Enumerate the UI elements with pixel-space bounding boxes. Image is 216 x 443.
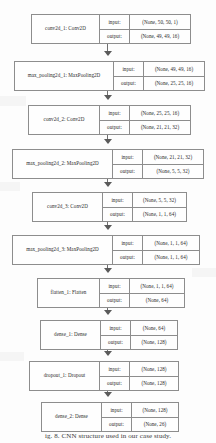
io-row-input: input:(None, 25, 25, 16): [100, 106, 190, 121]
arrowhead-icon: [104, 182, 112, 187]
scan-artifact: [0, 182, 20, 191]
io-key-output: output:: [100, 121, 130, 135]
io-row-output: output:(None, 26): [102, 418, 178, 432]
arrowhead-icon: [104, 139, 112, 144]
layer-name-label: conv2d_3: Conv2D: [33, 193, 103, 221]
layer-name-label: max_pooling2d_1: MaxPooling2D: [15, 62, 114, 90]
io-key-output: output:: [100, 294, 130, 308]
io-key-output: output:: [100, 30, 130, 44]
layer-io-table: input:(None, 128)output:(None, 128): [100, 362, 178, 390]
layer-io-table: input:(None, 49, 49, 16)output:(None, 25…: [114, 62, 204, 90]
io-value-output: (None, 128): [130, 377, 178, 391]
layer-io-table: input:(None, 21, 21, 32)output:(None, 5,…: [113, 150, 203, 178]
figure-caption: ig. 8. CNN structure used in our case st…: [0, 430, 216, 443]
io-row-output: output:(None, 128): [101, 336, 177, 350]
io-row-input: input:(None, 64): [101, 321, 177, 336]
io-row-input: input:(None, 1, 1, 64): [100, 279, 184, 294]
io-row-output: output:(None, 64): [100, 294, 184, 308]
layer-io-table: input:(None, 50, 50, 1)output:(None, 49,…: [100, 15, 190, 43]
io-value-output: (None, 21, 21, 32): [130, 121, 190, 135]
io-row-input: input:(None, 128): [102, 403, 178, 418]
layer-name-label: conv2d_2: Conv2D: [29, 106, 100, 134]
io-value-output: (None, 49, 49, 16): [130, 30, 190, 44]
io-value-input: (None, 21, 21, 32): [143, 150, 203, 164]
io-key-output: output:: [113, 165, 143, 179]
layer-node-dense_1[interactable]: dense_1: Denseinput:(None, 64)output:(No…: [40, 320, 178, 350]
io-key-output: output:: [102, 418, 132, 432]
io-value-output: (None, 128): [131, 336, 177, 350]
layer-node-max_pooling2d_1[interactable]: max_pooling2d_1: MaxPooling2Dinput:(None…: [14, 61, 205, 91]
io-value-input: (None, 50, 50, 1): [130, 15, 190, 29]
layer-io-table: input:(None, 1, 1, 64)output:(None, 64): [100, 279, 184, 307]
io-row-input: input:(None, 128): [100, 362, 178, 377]
scan-artifact: [0, 352, 24, 361]
layer-name-label: flatten_1: Flatten: [38, 279, 100, 307]
layer-node-max_pooling2d_2[interactable]: max_pooling2d_2: MaxPooling2Dinput:(None…: [12, 149, 204, 179]
io-key-output: output:: [103, 208, 133, 222]
arrowhead-icon: [104, 95, 112, 100]
scan-artifact: [192, 268, 216, 277]
io-row-output: output:(None, 25, 25, 16): [114, 77, 204, 91]
arrowhead-icon: [104, 392, 112, 397]
arrowhead-icon: [104, 310, 112, 315]
io-row-input: input:(None, 5, 5, 32): [103, 193, 186, 208]
io-value-input: (None, 49, 49, 16): [144, 62, 204, 76]
io-value-input: (None, 1, 1, 64): [130, 279, 184, 293]
io-key-input: input:: [100, 362, 130, 376]
io-key-output: output:: [113, 251, 143, 265]
io-value-output: (None, 64): [130, 294, 184, 308]
io-row-output: output:(None, 21, 21, 32): [100, 121, 190, 135]
io-key-output: output:: [101, 336, 131, 350]
io-row-output: output:(None, 49, 49, 16): [100, 30, 190, 44]
io-key-input: input:: [103, 193, 133, 207]
layer-node-conv2d_3[interactable]: conv2d_3: Conv2Dinput:(None, 5, 5, 32)ou…: [32, 192, 187, 222]
layer-node-conv2d_1[interactable]: conv2d_1: Conv2Dinput:(None, 50, 50, 1)o…: [31, 14, 191, 44]
layer-io-table: input:(None, 5, 5, 32)output:(None, 1, 1…: [103, 193, 186, 221]
io-value-output: (None, 26): [132, 418, 178, 432]
layer-node-dropout_1[interactable]: dropout_1: Dropoutinput:(None, 128)outpu…: [29, 361, 179, 391]
io-value-input: (None, 1, 1, 64): [143, 236, 199, 250]
io-key-output: output:: [114, 77, 144, 91]
layer-io-table: input:(None, 25, 25, 16)output:(None, 21…: [100, 106, 190, 134]
layer-name-label: conv2d_1: Conv2D: [32, 15, 100, 43]
layer-node-flatten_1[interactable]: flatten_1: Flatteninput:(None, 1, 1, 64)…: [37, 278, 185, 308]
io-key-output: output:: [100, 377, 130, 391]
io-key-input: input:: [100, 279, 130, 293]
io-row-input: input:(None, 50, 50, 1): [100, 15, 190, 30]
io-value-input: (None, 128): [130, 362, 178, 376]
io-key-input: input:: [101, 321, 131, 335]
io-value-output: (None, 1, 1, 64): [133, 208, 186, 222]
io-value-input: (None, 5, 5, 32): [133, 193, 186, 207]
arrowhead-icon: [104, 225, 112, 230]
io-row-input: input:(None, 1, 1, 64): [113, 236, 199, 251]
layer-io-table: input:(None, 1, 1, 64)output:(None, 1, 1…: [113, 236, 199, 264]
io-row-output: output:(None, 5, 5, 32): [113, 165, 203, 179]
io-row-input: input:(None, 21, 21, 32): [113, 150, 203, 165]
io-value-input: (None, 25, 25, 16): [130, 106, 190, 120]
layer-io-table: input:(None, 64)output:(None, 128): [101, 321, 177, 349]
io-value-output: (None, 25, 25, 16): [144, 77, 204, 91]
io-row-output: output:(None, 1, 1, 64): [113, 251, 199, 265]
io-value-output: (None, 1, 1, 64): [143, 251, 199, 265]
layer-name-label: dense_1: Dense: [41, 321, 101, 349]
io-key-input: input:: [113, 236, 143, 250]
model-architecture-diagram: conv2d_1: Conv2Dinput:(None, 50, 50, 1)o…: [0, 0, 216, 443]
layer-node-conv2d_2[interactable]: conv2d_2: Conv2Dinput:(None, 25, 25, 16)…: [28, 105, 191, 135]
io-key-input: input:: [113, 150, 143, 164]
layer-node-max_pooling2d_3[interactable]: max_pooling2d_3: MaxPooling2Dinput:(None…: [12, 235, 200, 265]
io-key-input: input:: [102, 403, 132, 417]
io-key-input: input:: [100, 15, 130, 29]
layer-node-dense_2[interactable]: dense_2: Denseinput:(None, 128)output:(N…: [41, 402, 179, 432]
io-row-output: output:(None, 1, 1, 64): [103, 208, 186, 222]
layer-name-label: dense_2: Dense: [42, 403, 102, 431]
scan-artifact: [0, 96, 26, 106]
io-row-input: input:(None, 49, 49, 16): [114, 62, 204, 77]
io-row-output: output:(None, 128): [100, 377, 178, 391]
layer-name-label: dropout_1: Dropout: [30, 362, 100, 390]
io-value-input: (None, 64): [131, 321, 177, 335]
layer-io-table: input:(None, 128)output:(None, 26): [102, 403, 178, 431]
io-key-input: input:: [100, 106, 130, 120]
arrowhead-icon: [104, 51, 112, 56]
layer-name-label: max_pooling2d_2: MaxPooling2D: [13, 150, 113, 178]
io-key-input: input:: [114, 62, 144, 76]
